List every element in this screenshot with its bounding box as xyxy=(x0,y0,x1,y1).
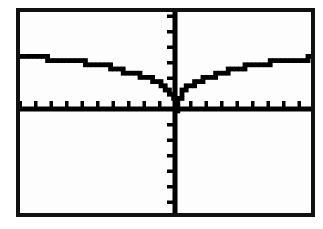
curve-pixel xyxy=(121,71,126,76)
curve-pixel xyxy=(251,62,256,67)
y-axis-tick-marks xyxy=(167,12,173,213)
curve-pixel xyxy=(188,83,193,88)
y-tick xyxy=(167,201,173,205)
curve-pixel xyxy=(75,58,80,63)
screen-frame-border xyxy=(16,8,315,217)
x-tick xyxy=(251,101,255,107)
y-tick xyxy=(167,185,173,189)
y-tick xyxy=(167,170,173,174)
y-tick xyxy=(167,154,173,158)
x-tick xyxy=(189,101,193,107)
curve-pixel xyxy=(54,58,59,63)
x-tick xyxy=(127,101,131,107)
curve-pixel xyxy=(83,62,88,67)
curve-pixel xyxy=(146,75,151,80)
x-tick xyxy=(50,101,54,107)
curve-pixel xyxy=(226,71,231,76)
curve-pixel xyxy=(243,67,248,72)
curve-pixel xyxy=(259,62,264,67)
y-tick xyxy=(167,46,173,50)
curve-pixel xyxy=(171,96,176,101)
x-tick xyxy=(236,101,240,107)
curve-pixel xyxy=(196,79,201,84)
curve-pixel xyxy=(180,92,185,97)
curve-pixel xyxy=(175,109,180,114)
x-tick xyxy=(205,101,209,107)
curve-pixel xyxy=(33,54,38,59)
curve-pixel xyxy=(234,67,239,72)
curve-pixel xyxy=(285,58,290,63)
curve-pixel xyxy=(125,71,130,76)
curve-pixel xyxy=(45,58,50,63)
x-tick xyxy=(282,101,286,107)
curve-pixel xyxy=(154,79,159,84)
curve-pixel xyxy=(24,54,29,59)
curve-pixel xyxy=(297,58,302,63)
y-tick xyxy=(167,123,173,127)
x-tick xyxy=(112,101,116,107)
curve-pixel xyxy=(150,75,155,80)
curve-pixel xyxy=(163,88,168,93)
curve-pixel xyxy=(150,79,155,84)
curve-pixel xyxy=(138,71,143,76)
curve-pixel xyxy=(79,58,84,63)
curve-pixel xyxy=(201,79,206,84)
curve-pixel xyxy=(96,62,101,67)
curve-pixel xyxy=(175,100,180,105)
calculator-screen xyxy=(0,0,323,229)
curve-pixel xyxy=(133,71,138,76)
x-tick xyxy=(20,101,22,107)
curve-pixel xyxy=(87,62,92,67)
curve-pixel xyxy=(129,71,134,76)
curve-pixel xyxy=(213,71,218,76)
plot-area[interactable] xyxy=(20,12,311,213)
curve-pixel xyxy=(264,62,269,67)
curve-pixel xyxy=(272,58,277,63)
curve-pixel xyxy=(175,96,180,101)
curve-pixel xyxy=(209,75,214,80)
curve-pixel xyxy=(201,75,206,80)
curve-pixel xyxy=(100,62,105,67)
graph-canvas[interactable] xyxy=(20,12,311,213)
x-tick xyxy=(96,101,100,107)
curve-pixel xyxy=(108,62,113,67)
curve-pixel xyxy=(83,58,88,63)
curve-pixel xyxy=(276,58,281,63)
curve-pixel xyxy=(62,58,67,63)
curve-pixel xyxy=(121,67,126,72)
curve-pixel xyxy=(205,75,210,80)
curve-pixel xyxy=(306,58,311,63)
curve-pixel xyxy=(28,54,33,59)
y-tick xyxy=(167,139,173,143)
y-tick xyxy=(167,77,173,81)
x-tick xyxy=(220,101,224,107)
curve-pixel xyxy=(289,58,294,63)
curve-pixel xyxy=(66,58,71,63)
curve-pixel xyxy=(180,88,185,93)
curve-pixel xyxy=(306,54,311,59)
curve-pixel xyxy=(142,75,147,80)
curve-pixel xyxy=(58,58,63,63)
curve-pixel xyxy=(159,79,164,84)
curve-pixel xyxy=(108,67,113,72)
curve-pixel xyxy=(184,83,189,88)
curve-pixel xyxy=(280,58,285,63)
x-tick xyxy=(158,101,162,107)
x-tick xyxy=(143,101,147,107)
curve-pixel xyxy=(104,62,109,67)
curve-pixel xyxy=(171,92,176,97)
curve-pixel xyxy=(138,75,143,80)
curve-pixel xyxy=(238,67,243,72)
curve-pixel xyxy=(112,67,117,72)
curve-pixel xyxy=(167,88,172,93)
curve-pixel xyxy=(243,62,248,67)
x-tick xyxy=(267,101,271,107)
curve-pixel xyxy=(222,71,227,76)
curve-pixel xyxy=(163,83,168,88)
x-tick xyxy=(81,101,85,107)
curve-pixel xyxy=(247,62,252,67)
x-tick xyxy=(34,101,38,107)
curve-pixel xyxy=(49,58,54,63)
curve-pixel xyxy=(192,83,197,88)
x-tick xyxy=(298,101,302,107)
